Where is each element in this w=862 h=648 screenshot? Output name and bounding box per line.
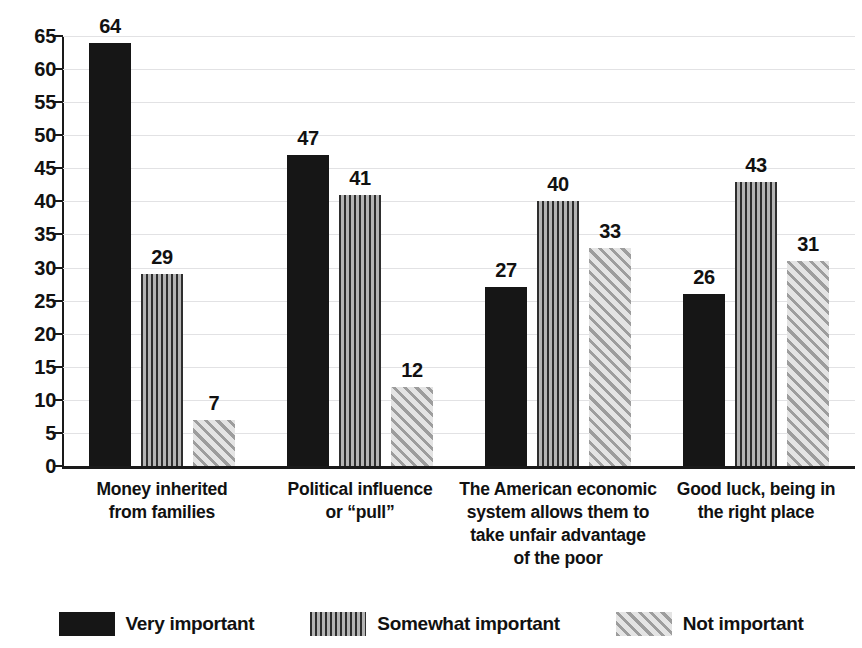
- category-label-line: of the poor: [459, 547, 657, 570]
- bar-value-label: 40: [547, 173, 569, 196]
- category-label-line: system allows them to: [459, 501, 657, 524]
- y-axis-tick-label: 25: [34, 289, 56, 312]
- legend-swatch-icon: [616, 612, 672, 636]
- y-axis-tick-label: 45: [34, 157, 56, 180]
- plot-area: 64297474112274033264331: [63, 36, 855, 466]
- bar: 43: [735, 182, 777, 466]
- x-axis-category-label: The American economicsystem allows them …: [459, 478, 657, 570]
- y-axis-tick-label: 15: [34, 355, 56, 378]
- bar-value-label: 43: [745, 154, 767, 177]
- bar: 27: [485, 287, 527, 466]
- y-axis-tick-label: 65: [34, 25, 56, 48]
- bar: 47: [287, 155, 329, 466]
- bar: 31: [787, 261, 829, 466]
- legend-item[interactable]: Somewhat important: [310, 612, 560, 636]
- category-label-line: Money inherited: [63, 478, 261, 501]
- bar: 26: [683, 294, 725, 466]
- bar-chart: 05101520253035404550556065 6429747411227…: [0, 0, 862, 648]
- category-label-line: The American economic: [459, 478, 657, 501]
- y-axis-tick-label: 10: [34, 388, 56, 411]
- bar-value-label: 29: [151, 246, 173, 269]
- bar-value-label: 31: [797, 233, 819, 256]
- y-axis-tick-label: 60: [34, 58, 56, 81]
- category-label-line: Good luck, being in: [657, 478, 855, 501]
- bar: 12: [391, 387, 433, 466]
- bar: 29: [141, 274, 183, 466]
- bars-layer: 64297474112274033264331: [63, 36, 855, 466]
- y-axis-tick-label: 35: [34, 223, 56, 246]
- category-label-line: Political influence: [261, 478, 459, 501]
- legend: Very importantSomewhat importantNot impo…: [0, 604, 862, 644]
- y-axis-tick-label: 50: [34, 124, 56, 147]
- category-label-line: take unfair advantage: [459, 524, 657, 547]
- y-axis: 05101520253035404550556065: [0, 0, 63, 648]
- legend-item[interactable]: Not important: [616, 612, 804, 636]
- category-label-line: the right place: [657, 501, 855, 524]
- legend-label: Very important: [126, 613, 255, 635]
- x-axis-category-labels: Money inheritedfrom familiesPolitical in…: [63, 478, 855, 588]
- bar-value-label: 47: [297, 127, 319, 150]
- bar: 33: [589, 248, 631, 466]
- bar-value-label: 26: [693, 266, 715, 289]
- bar: 41: [339, 195, 381, 466]
- category-label-line: or “pull”: [261, 501, 459, 524]
- category-label-line: from families: [63, 501, 261, 524]
- legend-label: Somewhat important: [377, 613, 560, 635]
- x-axis-category-label: Money inheritedfrom families: [63, 478, 261, 524]
- legend-label: Not important: [683, 613, 804, 635]
- bar-value-label: 41: [349, 167, 371, 190]
- y-axis-tick-label: 40: [34, 190, 56, 213]
- bar-value-label: 33: [599, 220, 621, 243]
- bar-value-label: 27: [495, 259, 517, 282]
- bar: 7: [193, 420, 235, 466]
- bar-value-label: 7: [209, 392, 220, 415]
- legend-swatch-icon: [310, 612, 366, 636]
- y-axis-tick-label: 55: [34, 91, 56, 114]
- bar-value-label: 12: [401, 359, 423, 382]
- x-axis-line: [62, 466, 855, 469]
- bar: 40: [537, 201, 579, 466]
- legend-swatch-icon: [59, 612, 115, 636]
- bar: 64: [89, 43, 131, 466]
- bar-value-label: 64: [99, 15, 121, 38]
- x-axis-category-label: Political influenceor “pull”: [261, 478, 459, 524]
- x-axis-category-label: Good luck, being inthe right place: [657, 478, 855, 524]
- y-axis-tick-label: 20: [34, 322, 56, 345]
- y-axis-tick-label: 30: [34, 256, 56, 279]
- legend-item[interactable]: Very important: [59, 612, 255, 636]
